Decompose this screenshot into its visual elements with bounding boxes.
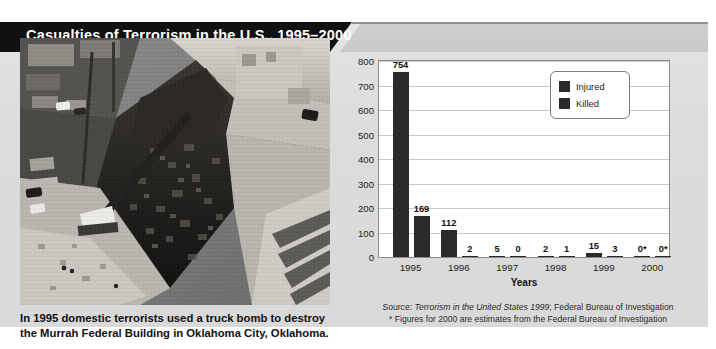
y-axis-tick-labels: 0100200300400500600700800	[344, 60, 374, 258]
caption-line-1: In 1995 domestic terrorists used a truck…	[20, 311, 350, 326]
x-tick-label: 1997	[496, 262, 518, 273]
bar-group: 1122	[427, 61, 475, 257]
bar-injured-1997	[489, 256, 505, 258]
source-line-1: Source: Terrorism in the United States 1…	[352, 302, 704, 314]
legend-label-killed: Killed	[576, 98, 599, 109]
source-title-italic: Terrorism in the United States 1999	[414, 302, 549, 312]
y-tick-label: 500	[344, 129, 374, 140]
bar-injured-1995	[393, 72, 409, 257]
chart-legend: Injured Killed	[550, 71, 630, 119]
bar-value-label: 0*	[659, 244, 668, 254]
bar-value-label: 1	[564, 244, 569, 254]
source-prefix: Source:	[382, 302, 414, 312]
infographic-root: Casualties of Terrorism in the U.S., 199…	[0, 0, 716, 349]
photo-graphic	[20, 38, 330, 305]
x-tick-label: 1999	[593, 262, 615, 273]
bar-value-label: 112	[441, 218, 456, 228]
legend-swatch-injured	[559, 81, 570, 92]
legend-item-injured: Injured	[559, 78, 621, 95]
bar-value-label: 0*	[638, 244, 647, 254]
aerial-photo-murrah-federal-building-bombing	[20, 38, 330, 305]
photo-caption: In 1995 domestic terrorists used a truck…	[20, 311, 350, 341]
legend-label-injured: Injured	[576, 81, 605, 92]
bar-killed-2000	[655, 256, 671, 257]
y-tick-label: 300	[344, 178, 374, 189]
bar-injured-2000	[634, 256, 650, 257]
bar-value-label: 15	[589, 241, 599, 251]
bar-value-label: 754	[393, 60, 409, 70]
x-tick-label: 1998	[545, 262, 567, 273]
bar-injured-1996	[441, 230, 457, 257]
y-tick-label: 800	[344, 56, 374, 67]
source-line-2: * Figures for 2000 are estimates from th…	[352, 314, 704, 326]
bar-injured-1998	[538, 256, 554, 258]
y-tick-label: 700	[344, 80, 374, 91]
bar-value-label: 3	[612, 244, 617, 254]
caption-line-2: the Murrah Federal Building in Oklahoma …	[20, 326, 350, 341]
legend-swatch-killed	[559, 98, 570, 109]
x-tick-label: 1996	[448, 262, 470, 273]
source-suffix: ; Federal Bureau of Investigation	[549, 302, 673, 312]
banner-top-rule	[352, 22, 708, 24]
y-tick-label: 600	[344, 105, 374, 116]
bar-value-label: 2	[543, 244, 548, 254]
y-tick-label: 0	[344, 252, 374, 263]
bar-injured-1999	[586, 253, 602, 257]
bar-value-label: 5	[495, 244, 500, 254]
bar-group: 50	[476, 61, 524, 257]
x-tick-label: 2000	[641, 262, 663, 273]
bar-value-label: 0	[516, 244, 521, 254]
y-tick-label: 400	[344, 154, 374, 165]
x-tick-label: 1995	[400, 262, 422, 273]
bar-group: 754169	[379, 61, 427, 257]
legend-item-killed: Killed	[559, 95, 621, 112]
bar-value-label: 2	[467, 244, 472, 254]
x-axis-tick-labels: 199519961997199819992000	[379, 262, 669, 276]
bar-chart: 0100200300400500600700800 75416911225021…	[344, 48, 696, 303]
y-tick-label: 200	[344, 203, 374, 214]
y-tick-label: 100	[344, 227, 374, 238]
source-note: Source: Terrorism in the United States 1…	[352, 302, 704, 325]
x-axis-title: Years	[379, 277, 669, 288]
